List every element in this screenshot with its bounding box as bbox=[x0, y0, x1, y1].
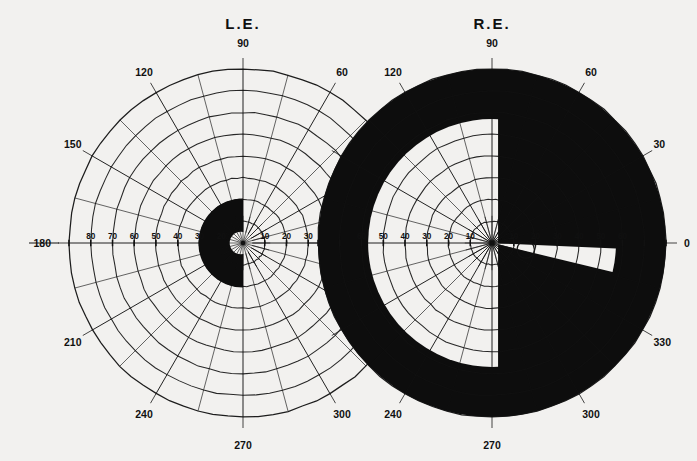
meridian-leader-240 bbox=[400, 394, 406, 404]
meridian-leader-120 bbox=[400, 83, 406, 93]
chart-right-eye: 9012060300330300270240605040302010102030… bbox=[307, 15, 690, 451]
fixation-point bbox=[241, 241, 245, 245]
radial-tick-label: 10 bbox=[260, 232, 270, 241]
meridian-leader-300 bbox=[330, 394, 336, 404]
chart-title-left-eye: L.E. bbox=[225, 15, 261, 32]
radial-tick-label: 60 bbox=[130, 232, 140, 241]
meridian-label-90: 90 bbox=[486, 37, 498, 49]
chart-title-right-eye: R.E. bbox=[473, 15, 510, 32]
radial-tick-label: 20 bbox=[282, 232, 292, 241]
radial-tick-label: 50 bbox=[596, 232, 606, 241]
radial-tick-label: 50 bbox=[151, 232, 161, 241]
meridian-leader-30 bbox=[643, 151, 653, 157]
meridian-label-240: 240 bbox=[384, 408, 402, 420]
radial-tick-label: 50 bbox=[379, 232, 389, 241]
meridian-leader-120 bbox=[151, 83, 157, 93]
meridian-label-0: 0 bbox=[684, 237, 690, 249]
radial-tick-label: 40 bbox=[574, 232, 584, 241]
radial-tick-label: 40 bbox=[173, 232, 183, 241]
meridian-label-270: 270 bbox=[234, 439, 252, 451]
meridian-leader-150 bbox=[83, 151, 93, 157]
meridian-label-300: 300 bbox=[333, 408, 351, 420]
fixation-point bbox=[490, 241, 494, 245]
radial-tick-label: 60 bbox=[357, 232, 367, 241]
radial-tick-label: 30 bbox=[195, 232, 205, 241]
meridian-label-30: 30 bbox=[653, 138, 665, 150]
meridian-label-60: 60 bbox=[585, 66, 597, 78]
radial-tick-label: 20 bbox=[444, 232, 454, 241]
chart-sheet: 9012015018021024027030060807060504030201… bbox=[0, 0, 697, 461]
meridian-label-60: 60 bbox=[336, 66, 348, 78]
radial-tick-label: 20 bbox=[217, 232, 227, 241]
radial-tick-label: 30 bbox=[304, 232, 314, 241]
radial-tick-label: 30 bbox=[553, 232, 563, 241]
meridian-leader-60 bbox=[330, 83, 336, 93]
meridian-label-270: 270 bbox=[483, 439, 501, 451]
meridian-leader-300 bbox=[579, 394, 585, 404]
radial-tick-label: 10 bbox=[509, 232, 519, 241]
meridian-label-120: 120 bbox=[384, 66, 402, 78]
meridian-label-330: 330 bbox=[653, 336, 671, 348]
meridian-label-90: 90 bbox=[237, 37, 249, 49]
meridian-label-300: 300 bbox=[582, 408, 600, 420]
perimetry-figure: 9012015018021024027030060807060504030201… bbox=[0, 0, 697, 461]
radial-tick-label: 20 bbox=[531, 232, 541, 241]
radial-tick-label: 80 bbox=[86, 232, 96, 241]
radial-tick-label: 60 bbox=[618, 232, 628, 241]
radial-tick-label: 70 bbox=[108, 232, 118, 241]
meridian-leader-240 bbox=[151, 394, 157, 404]
meridian-leader-210 bbox=[83, 330, 93, 336]
meridian-leader-60 bbox=[579, 83, 585, 93]
radial-tick-label: 40 bbox=[400, 232, 410, 241]
meridian-label-150: 150 bbox=[64, 138, 82, 150]
meridian-label-210: 210 bbox=[64, 336, 82, 348]
meridian-label-120: 120 bbox=[135, 66, 153, 78]
radial-tick-label: 30 bbox=[422, 232, 432, 241]
meridian-leader-330 bbox=[643, 330, 653, 336]
radial-tick-label: 10 bbox=[466, 232, 476, 241]
meridian-label-240: 240 bbox=[135, 408, 153, 420]
